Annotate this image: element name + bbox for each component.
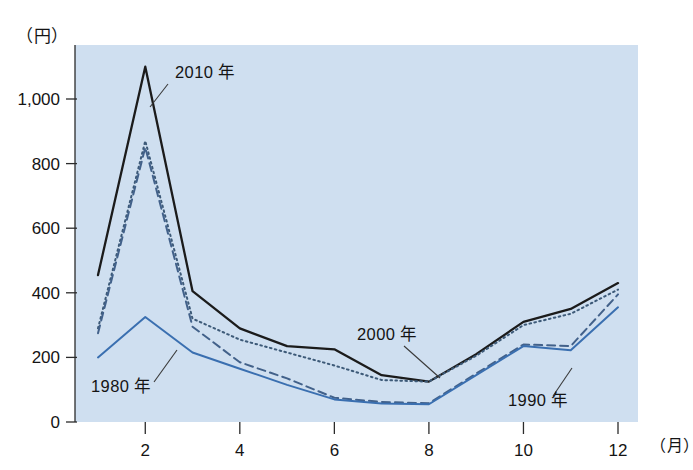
- y-tick-label: 200: [32, 348, 60, 367]
- plot-area-background: [75, 45, 638, 422]
- y-axis-ticks: 02004006008001,000: [17, 90, 77, 432]
- y-tick-label: 400: [32, 284, 60, 303]
- series-annotation-label: 2010 年: [175, 63, 236, 81]
- y-tick-label: 800: [32, 155, 60, 174]
- x-tick-label: 12: [609, 441, 628, 460]
- y-tick-label: 1,000: [17, 90, 60, 109]
- y-tick-label: 600: [32, 219, 60, 238]
- x-tick-label: 2: [141, 441, 150, 460]
- series-annotation-label: 1990 年: [508, 391, 569, 409]
- x-tick-label: 4: [235, 441, 244, 460]
- y-tick-label: 0: [51, 413, 60, 432]
- x-axis-ticks: 24681012: [141, 422, 628, 460]
- series-annotation-label: 1980 年: [91, 377, 152, 395]
- x-tick-label: 6: [330, 441, 339, 460]
- series-annotation-label: 2000 年: [357, 325, 418, 343]
- x-tick-label: 10: [514, 441, 533, 460]
- x-tick-label: 8: [424, 441, 433, 460]
